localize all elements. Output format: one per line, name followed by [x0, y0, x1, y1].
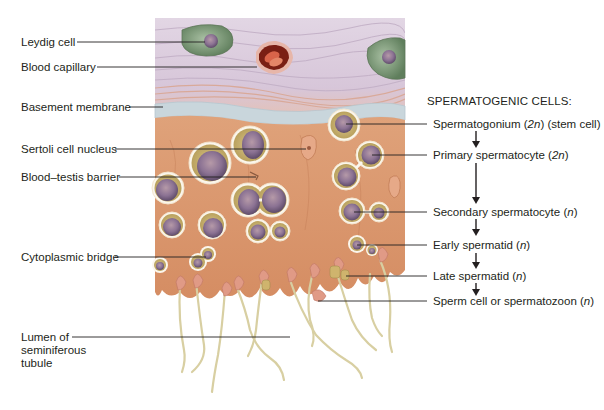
stage-name: Early spermatid [433, 239, 513, 251]
stage-ploidy: n [567, 206, 573, 218]
spermatogenic-cells-title: SPERMATOGENIC CELLS: [427, 95, 572, 107]
stage-secondary-spermatocyte: Secondary spermatocyte (n) [433, 206, 577, 219]
stage-name: Primary spermatocyte [433, 149, 545, 161]
stage-spermatogonium: Spermatogonium (2n) (stem cell) [433, 118, 600, 131]
label-blood-testis-barrier: Blood–testis barrier [21, 171, 120, 184]
label-cytoplasmic-bridge: Cytoplasmic bridge [21, 251, 119, 264]
stage-ploidy: 2n [528, 118, 541, 130]
stage-primary-spermatocyte: Primary spermatocyte (2n) [433, 149, 569, 162]
stage-ploidy: n [584, 295, 590, 307]
stage-ploidy: 2n [552, 149, 565, 161]
stage-ploidy: n [516, 270, 522, 282]
stage-name: Sperm cell or spermatozoon [433, 295, 577, 307]
label-lumen-line3: tubule [21, 357, 101, 370]
label-blood-capillary: Blood capillary [21, 61, 96, 74]
label-lumen: Lumen of seminiferous tubule [21, 331, 101, 370]
label-lumen-line2: seminiferous [21, 344, 101, 357]
stage-spermatozoon: Sperm cell or spermatozoon (n) [433, 295, 594, 308]
stage-ploidy: n [520, 239, 526, 251]
label-basement-membrane: Basement membrane [21, 101, 131, 114]
label-lumen-line1: Lumen of [21, 331, 101, 344]
stage-note: (stem cell) [547, 118, 600, 130]
stage-early-spermatid: Early spermatid (n) [433, 239, 530, 252]
stage-late-spermatid: Late spermatid (n) [433, 270, 526, 283]
label-sertoli-cell-nucleus: Sertoli cell nucleus [21, 143, 117, 156]
stage-name: Secondary spermatocyte [433, 206, 560, 218]
label-leydig-cell: Leydig cell [21, 36, 75, 49]
stage-name: Late spermatid [433, 270, 509, 282]
stage-name: Spermatogonium [433, 118, 521, 130]
